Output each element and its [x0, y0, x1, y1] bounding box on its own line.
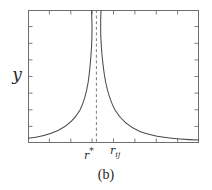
y-axis-ticks-right	[195, 27, 200, 127]
y-axis-label: y	[6, 64, 28, 84]
x-axis-label-r-ij: rij	[110, 145, 120, 161]
x-axis-label-r-star: r*	[84, 145, 94, 162]
figure-panel-b: y r* rij (b)	[0, 0, 212, 190]
curve-right-branch	[101, 10, 199, 140]
x-axis-ticks-top	[49, 10, 177, 15]
figure-caption: (b)	[0, 166, 212, 183]
x-axis-label-r-ij-subscript: ij	[115, 150, 120, 159]
x-axis-ticks	[49, 139, 177, 144]
plot-canvas	[28, 10, 199, 143]
y-axis-ticks	[28, 27, 33, 127]
x-axis-label-r-star-superscript: *	[89, 146, 94, 156]
curve-left-branch	[28, 10, 92, 138]
